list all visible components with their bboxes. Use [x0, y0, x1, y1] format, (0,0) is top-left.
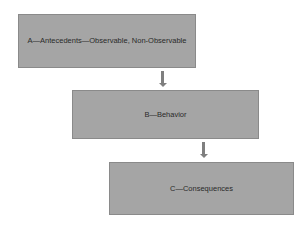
- arrow-shaft: [161, 71, 164, 83]
- node-antecedents-label: A—Antecedents—Observable, Non-Observable: [28, 36, 187, 46]
- node-consequences-label: C—Consequences: [170, 184, 233, 194]
- arrow-head: [200, 154, 208, 158]
- arrow-shaft: [202, 142, 205, 154]
- node-behavior: B—Behavior: [72, 90, 259, 139]
- node-consequences: C—Consequences: [109, 162, 294, 215]
- node-antecedents: A—Antecedents—Observable, Non-Observable: [18, 14, 196, 68]
- arrow-head: [159, 83, 167, 87]
- arrow-down-icon: [201, 142, 207, 158]
- node-behavior-label: B—Behavior: [144, 110, 186, 120]
- arrow-down-icon: [160, 71, 166, 87]
